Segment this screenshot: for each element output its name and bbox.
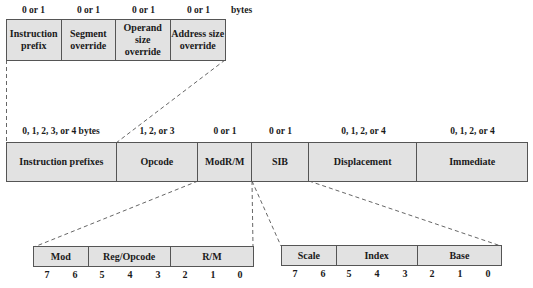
modrm-bit-7: 7 <box>41 269 53 280</box>
sib-right-connector <box>309 181 501 246</box>
field-sib: SIB <box>252 143 309 181</box>
sib-bit-4: 4 <box>371 268 383 279</box>
sib-bit-7: 7 <box>289 268 301 279</box>
modrm-bit-6: 6 <box>69 269 81 280</box>
field-segment-override: Segment override <box>62 20 117 60</box>
sib-bit-5: 5 <box>343 268 355 279</box>
modrm-bit-5: 5 <box>96 269 108 280</box>
field-reg-opcode: Reg/Opcode <box>89 247 171 266</box>
prefix-size-label: 0 or 1 <box>6 5 61 15</box>
sib-size-label: 0 or 1 <box>252 126 309 136</box>
field-displacement: Displacement <box>309 143 418 181</box>
modrm-bit-4: 4 <box>124 269 136 280</box>
field-opcode: Opcode <box>117 143 199 181</box>
field-address-size-override: Address size override <box>171 20 226 60</box>
sib-bit-3: 3 <box>399 268 411 279</box>
modrm-size-label: 0 or 1 <box>198 126 252 136</box>
field-index: Index <box>337 246 418 265</box>
field-instruction-prefixes: Instruction prefixes <box>7 143 117 181</box>
field-rm: R/M <box>171 247 253 266</box>
operand-size-label: 0 or 1 <box>116 5 171 15</box>
sib-bit-1: 1 <box>454 268 466 279</box>
field-modrm: ModR/M <box>198 143 252 181</box>
field-instruction-prefix: Instruction prefix <box>7 20 62 60</box>
address-size-label: 0 or 1 <box>171 5 226 15</box>
bytes-unit-label: bytes <box>231 5 252 15</box>
field-immediate: Immediate <box>417 143 527 181</box>
modrm-bit-2: 2 <box>179 269 191 280</box>
modrm-detail-box: Mod Reg/Opcode R/M <box>33 246 254 267</box>
modrm-bit-1: 1 <box>207 269 219 280</box>
opcode-size-label: 1, 2, or 3 <box>116 126 198 136</box>
modrm-bit-0: 0 <box>234 269 246 280</box>
field-base: Base <box>418 246 501 265</box>
field-mod: Mod <box>34 247 89 266</box>
prefix-detail-box: Instruction prefix Segment override Oper… <box>6 19 226 61</box>
sib-detail-box: Scale Index Base <box>281 245 502 266</box>
sib-bit-6: 6 <box>317 268 329 279</box>
instruction-format-box: Instruction prefixes Opcode ModR/M SIB D… <box>6 142 528 182</box>
sib-left-connector <box>252 181 281 246</box>
prefixes-size-label: 0, 1, 2, 3, or 4 bytes <box>6 126 116 136</box>
sib-bit-0: 0 <box>482 268 494 279</box>
field-operand-size-override: Operand size override <box>116 20 171 60</box>
displacement-size-label: 0, 1, 2, or 4 <box>309 126 418 136</box>
modrm-left-connector <box>34 181 198 247</box>
immediate-size-label: 0, 1, 2, or 4 <box>418 126 527 136</box>
segment-size-label: 0 or 1 <box>61 5 116 15</box>
field-scale: Scale <box>282 246 337 265</box>
modrm-right-connector <box>252 181 253 247</box>
sib-bit-2: 2 <box>426 268 438 279</box>
modrm-bit-3: 3 <box>152 269 164 280</box>
